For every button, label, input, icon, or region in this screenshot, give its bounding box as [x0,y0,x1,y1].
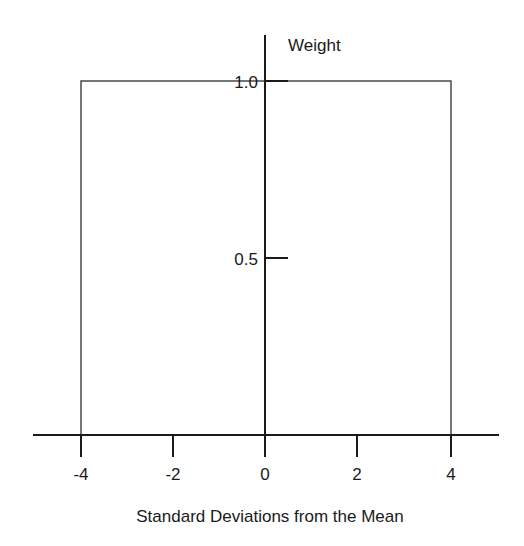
y-tick-label: 0.5 [234,250,258,269]
x-tick-label: -4 [73,465,88,484]
y-ticks [265,81,288,258]
x-ticks [81,435,451,457]
x-tick-label: 2 [352,465,361,484]
x-tick-label: 4 [446,465,455,484]
x-axis-title: Standard Deviations from the Mean [136,507,403,526]
x-tick-label: -2 [165,465,180,484]
y-tick-label: 1.0 [234,73,258,92]
x-tick-label: 0 [260,465,269,484]
y-axis-title: Weight [288,36,341,55]
chart: -4 -2 0 2 4 1.0 0.5 Weight Standard Devi… [0,0,524,546]
